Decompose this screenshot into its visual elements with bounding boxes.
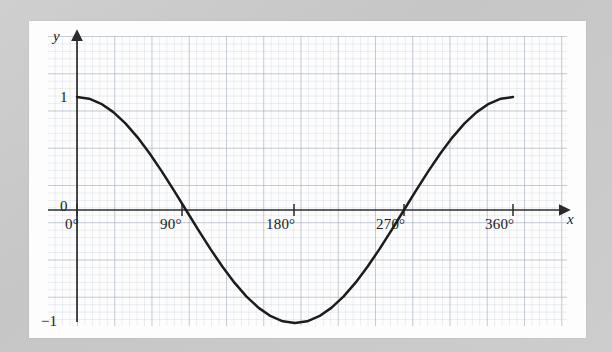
grid-layer: [48, 36, 567, 326]
y-tick-label-minus-1: −1: [41, 314, 57, 329]
major-gridlines: [48, 36, 567, 326]
figure-scene: y x 1 0 −1 0° 90° 180° 270° 360°: [0, 0, 612, 352]
x-tick-label-90deg: 90°: [160, 217, 182, 232]
x-axis-label: x: [567, 212, 574, 227]
x-tick-label-180deg: 180°: [266, 217, 295, 232]
y-tick-label-0: 0: [60, 199, 68, 214]
cosine-plot: [29, 21, 586, 338]
y-tick-label-1: 1: [60, 90, 68, 105]
x-tick-label-360deg: 360°: [485, 217, 514, 232]
x-tick-label-270deg: 270°: [376, 217, 405, 232]
graph-paper-sheet: y x 1 0 −1 0° 90° 180° 270° 360°: [29, 21, 586, 338]
x-tick-label-0deg: 0°: [65, 217, 79, 232]
y-axis-label: y: [53, 29, 60, 44]
